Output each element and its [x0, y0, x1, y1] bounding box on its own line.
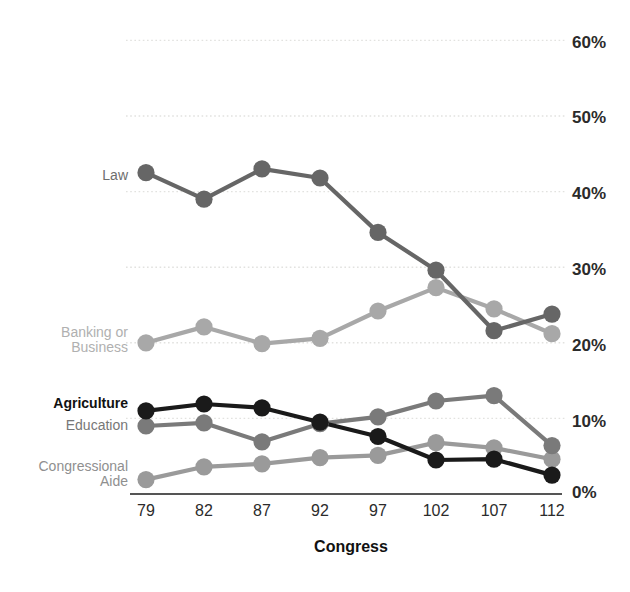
x-tick-79: 79 — [137, 502, 155, 520]
series-label-law: Law — [102, 168, 128, 183]
series-label-agriculture: Agriculture — [53, 396, 128, 411]
data-point — [543, 467, 560, 484]
data-point — [253, 433, 270, 450]
y-tick-50: 50% — [572, 108, 606, 128]
data-point — [137, 164, 154, 181]
data-point — [427, 392, 444, 409]
data-point — [137, 402, 154, 419]
data-point — [485, 300, 502, 317]
data-point — [485, 322, 502, 339]
data-point — [195, 318, 212, 335]
y-tick-10: 10% — [572, 412, 606, 432]
series-label-congressional-aide: Congressional Aide — [39, 459, 129, 489]
data-point — [195, 458, 212, 475]
y-tick-60: 60% — [572, 33, 606, 53]
x-tick-102: 102 — [423, 502, 450, 520]
data-point — [543, 306, 560, 323]
data-point — [311, 330, 328, 347]
data-point — [253, 335, 270, 352]
data-point — [543, 325, 560, 342]
y-tick-40: 40% — [572, 184, 606, 204]
data-point — [543, 437, 560, 454]
data-point — [427, 434, 444, 451]
x-tick-97: 97 — [369, 502, 387, 520]
x-tick-82: 82 — [195, 502, 213, 520]
x-axis-title: Congress — [314, 538, 388, 556]
series-label-banking-or-business: Banking or Business — [61, 325, 128, 355]
data-point — [253, 160, 270, 177]
data-point — [369, 408, 386, 425]
data-point — [311, 449, 328, 466]
data-point — [137, 417, 154, 434]
data-point — [311, 414, 328, 431]
data-point — [195, 191, 212, 208]
data-point — [485, 387, 502, 404]
data-point — [369, 447, 386, 464]
data-point — [137, 334, 154, 351]
data-point — [369, 224, 386, 241]
series-label-education: Education — [66, 418, 128, 433]
data-point — [427, 451, 444, 468]
data-point — [253, 455, 270, 472]
data-point — [427, 279, 444, 296]
x-tick-92: 92 — [311, 502, 329, 520]
data-point — [311, 169, 328, 186]
x-tick-107: 107 — [481, 502, 508, 520]
x-tick-112: 112 — [539, 502, 565, 520]
y-tick-30: 30% — [572, 260, 606, 280]
y-tick-20: 20% — [572, 336, 606, 356]
x-tick-87: 87 — [253, 502, 271, 520]
data-point — [427, 262, 444, 279]
data-point — [195, 414, 212, 431]
chart-figure: 60% 50% 40% 30% 20% 10% 0% 79 82 87 92 9… — [0, 0, 630, 592]
data-point — [369, 302, 386, 319]
data-point — [369, 428, 386, 445]
data-point — [485, 451, 502, 468]
data-point — [137, 471, 154, 488]
data-point — [253, 399, 270, 416]
y-tick-0: 0% — [572, 483, 597, 503]
gridlines — [126, 40, 566, 418]
data-point — [195, 395, 212, 412]
